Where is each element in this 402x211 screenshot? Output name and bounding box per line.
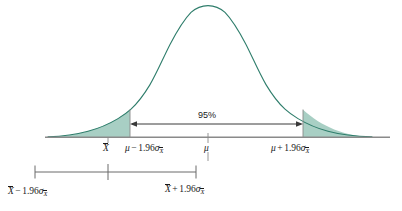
upper-tail-shading [303,110,372,137]
confidence-level-label: 95% [198,110,216,120]
lower-critical-value-label: μ−1.96σX [125,144,163,154]
figure-canvas [0,0,402,211]
interval-measurement-bar [35,164,196,180]
confidence-interval-upper-label: X+1.96σX [165,185,204,195]
confidence-interval-lower-label: X−1.96σX [8,187,47,197]
lower-tail-shading [48,110,130,137]
x-bar-symbol: X [103,143,109,153]
confidence-span-arrow [130,121,303,127]
upper-critical-value-label: μ+1.96σX [271,144,309,154]
normal-curve-confidence-interval-figure: 95% X μ−1.96σX μ μ+1.96σX X−1.96σX X+1.9… [0,0,402,211]
x-bar-axis-label: X [103,144,109,154]
population-mean-label: μ [204,144,209,154]
